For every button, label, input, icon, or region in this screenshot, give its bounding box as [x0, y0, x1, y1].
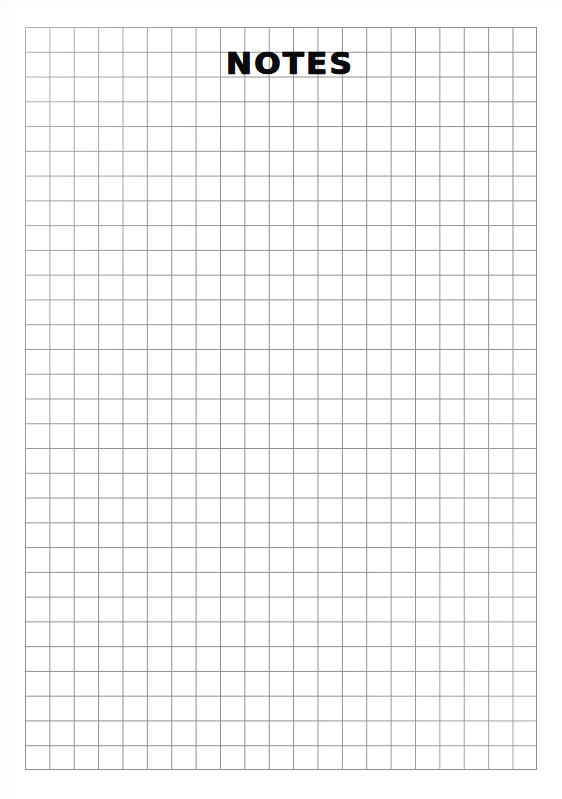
page-title: NOTES — [0, 45, 562, 81]
notes-page: NOTES — [0, 0, 562, 799]
running-head — [0, 0, 562, 7]
notes-grid[interactable] — [25, 27, 537, 770]
